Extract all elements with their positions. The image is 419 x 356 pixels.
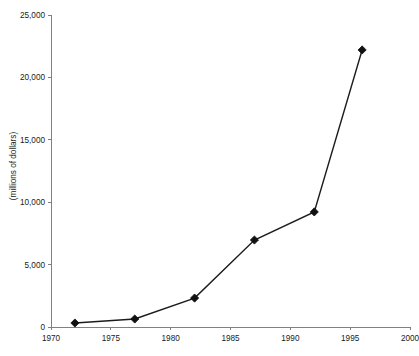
x-tick-label: 1985 xyxy=(221,334,240,343)
y-tick-label: 10,000 xyxy=(20,198,45,207)
y-tick-label: 25,000 xyxy=(20,11,45,20)
x-tick-label: 1995 xyxy=(341,334,360,343)
x-tick-label: 1990 xyxy=(281,334,300,343)
x-tick-label: 1970 xyxy=(42,334,61,343)
y-tick-label: 20,000 xyxy=(20,73,45,82)
x-tick-label: 2000 xyxy=(401,334,419,343)
chart-background xyxy=(0,0,419,356)
y-axis-title: (millions of dollars) xyxy=(9,132,18,201)
line-chart: 05,00010,00015,00020,00025,000 197019751… xyxy=(0,0,419,356)
x-tick-label: 1980 xyxy=(162,334,181,343)
y-tick-label: 0 xyxy=(40,323,45,332)
y-tick-label: 5,000 xyxy=(25,261,46,270)
x-tick-label: 1975 xyxy=(102,334,121,343)
chart-container: 05,00010,00015,00020,00025,000 197019751… xyxy=(0,0,419,356)
y-tick-label: 15,000 xyxy=(20,136,45,145)
